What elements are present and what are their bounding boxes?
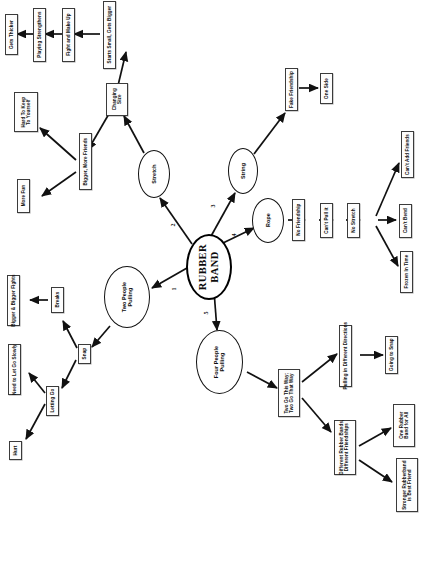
node-label: Two People Pulling [121, 282, 133, 313]
node-frozen-in-time[interactable]: Frozen In Time [400, 251, 413, 293]
node-label: Snap [82, 348, 87, 360]
node-different-rubber-bands[interactable]: Different Rubber Bands, Different Friend… [334, 420, 356, 475]
node-stretch[interactable]: Stretch [138, 150, 170, 198]
node-label: Stronger Rubberband is Best Friend [402, 460, 412, 509]
node-label: String [240, 163, 246, 179]
node-need-to-let-go-slowly[interactable]: Need to Let Go Slowly [8, 344, 21, 395]
node-four-people-pulling[interactable]: Four People Pulling [196, 330, 243, 394]
node-label: Going to Snap [389, 339, 394, 372]
node-bigger-more-friends[interactable]: Bigger, More Friends [79, 133, 92, 190]
node-bigger-and-bigger-fights[interactable]: Bigger & Bigger Fights [7, 275, 20, 326]
node-label: Playing Strengthens [37, 12, 42, 58]
node-label: Gets Thicker [9, 20, 14, 49]
node-pulling-in-different-directions[interactable]: Pulling in Different Directions [339, 325, 352, 387]
node-label: Bigger, More Friends [83, 138, 88, 186]
node-going-to-snap[interactable]: Going to Snap [385, 336, 398, 374]
node-playing-strengthens[interactable]: Playing Strengthens [33, 8, 46, 62]
node-label: One Side [324, 78, 329, 99]
node-breaks[interactable]: Breaks [51, 287, 64, 313]
node-rope[interactable]: Rope [252, 198, 284, 243]
node-label: Can't Pull it [324, 207, 329, 233]
node-label: Frozen In Time [404, 255, 409, 289]
node-label: No Stretch [351, 208, 356, 232]
node-label: Need to Let Go Slowly [12, 344, 17, 395]
node-stronger-rubberband-is-best-friend[interactable]: Stronger Rubberband is Best Friend [396, 458, 418, 512]
edge-label-1: 1 [172, 286, 175, 292]
central-node-rubber-band[interactable]: RUBBER BAND [186, 234, 232, 300]
node-label: Different Rubber Bands, Different Friend… [340, 420, 350, 475]
node-label: Fake Friendship [289, 71, 294, 108]
node-letting-go[interactable]: Letting Go [46, 386, 59, 416]
node-two-people-pulling[interactable]: Two People Pulling [104, 266, 150, 328]
node-hurt[interactable]: Hurt [9, 441, 22, 460]
node-label: Changing Size [112, 89, 122, 111]
node-label: Four People Pulling [213, 346, 225, 378]
central-node-label: RUBBER BAND [197, 244, 221, 290]
node-more-fun[interactable]: More Fun [17, 179, 30, 213]
node-label: Breaks [55, 292, 60, 308]
node-changing-size[interactable]: Changing Size [106, 83, 128, 116]
node-label: Fight and Make Up [66, 14, 71, 57]
node-label: Can't Add Friends [405, 134, 410, 175]
node-cant-bend[interactable]: Can't Bend [399, 204, 412, 238]
node-fake-friendship[interactable]: Fake Friendship [285, 68, 298, 111]
node-one-rubber-band-for-all[interactable]: One Rubber Band for All [393, 404, 415, 447]
node-cant-pull-it[interactable]: Can't Pull it [320, 203, 333, 238]
node-label: Letting Go [50, 389, 55, 413]
node-string[interactable]: String [228, 148, 258, 194]
node-label: Starts Small, Gets Bigger [107, 6, 112, 64]
edge-label-5: 5 [204, 310, 207, 316]
node-label: Hard To Keep To Yourself [21, 97, 31, 128]
node-label: Stretch [151, 164, 157, 183]
node-two-go-this-way[interactable]: Two Go This Way; Two Go That Way [278, 369, 300, 417]
diagram-canvas: RUBBER BAND Stretch String Rope Two Peop… [0, 0, 439, 575]
node-label: One Rubber Band for All [399, 412, 409, 439]
node-label: More Fun [21, 185, 26, 206]
node-label: Two Go This Way; Two Go That Way [284, 373, 294, 414]
node-fight-and-make-up[interactable]: Fight and Make Up [62, 8, 75, 62]
node-cant-add-friends[interactable]: Can't Add Friends [401, 131, 414, 178]
node-no-friendship[interactable]: No Friendship [292, 199, 305, 241]
node-label: Hurt [13, 446, 18, 456]
node-hard-to-keep-to-yourself[interactable]: Hard To Keep To Yourself [14, 92, 38, 132]
edge-label-2: 2 [171, 222, 174, 228]
node-no-stretch[interactable]: No Stretch [347, 203, 360, 238]
node-snap[interactable]: Snap [78, 344, 91, 364]
node-label: Pulling in Different Directions [343, 322, 348, 390]
node-label: Bigger & Bigger Fights [11, 274, 16, 326]
edge-label-4: 4 [232, 232, 235, 238]
node-starts-small-gets-bigger[interactable]: Starts Small, Gets Bigger [103, 1, 116, 69]
node-gets-thicker[interactable]: Gets Thicker [5, 14, 18, 55]
node-label: No Friendship [296, 204, 301, 236]
edge-label-3: 3 [211, 203, 214, 209]
node-one-side[interactable]: One Side [320, 73, 333, 104]
node-label: Rope [265, 214, 271, 228]
node-label: Can't Bend [403, 208, 408, 233]
